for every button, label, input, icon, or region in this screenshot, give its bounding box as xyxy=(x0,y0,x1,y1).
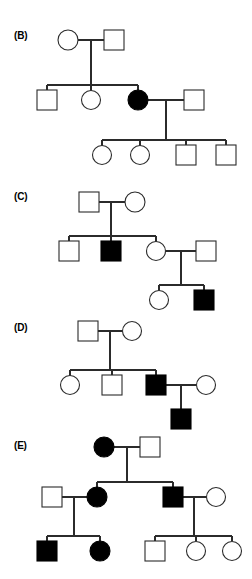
individual-c-I-1-male-unaffected[interactable] xyxy=(79,192,99,212)
individual-e-III-5-female-unaffected[interactable] xyxy=(223,542,242,561)
panel-b-group xyxy=(37,30,236,165)
individual-e-I-1-female-affected[interactable] xyxy=(94,437,114,457)
individual-d-I-2-female-unaffected[interactable] xyxy=(123,322,142,341)
individual-c-II-3-female-unaffected[interactable] xyxy=(147,242,166,261)
panel-label-e: (E) xyxy=(14,440,27,451)
pedigree-canvas xyxy=(0,0,252,579)
individual-e-III-4-female-unaffected[interactable] xyxy=(187,542,206,561)
individual-d-II-3-male-affected[interactable] xyxy=(146,375,166,395)
individual-b-II-3-female-affected[interactable] xyxy=(128,90,148,110)
individual-c-III-1-female-unaffected[interactable] xyxy=(150,291,169,310)
panel-label-b: (B) xyxy=(14,30,27,41)
individual-c-I-2-female-unaffected[interactable] xyxy=(125,192,145,212)
panel-e-group xyxy=(37,437,242,561)
panel-label-c: (C) xyxy=(14,191,27,202)
panel-d-group xyxy=(61,321,216,429)
individual-d-II-4-female-unaffected[interactable] xyxy=(197,376,216,395)
individual-b-II-4-male-unaffected[interactable] xyxy=(184,90,204,110)
individual-d-II-2-male-unaffected[interactable] xyxy=(102,375,122,395)
individual-b-III-4-male-unaffected[interactable] xyxy=(216,145,236,165)
individual-d-I-1-male-unaffected[interactable] xyxy=(78,321,98,341)
individual-b-III-3-male-unaffected[interactable] xyxy=(176,145,196,165)
individual-e-II-4-female-unaffected[interactable] xyxy=(207,488,226,507)
individual-b-III-2-female-unaffected[interactable] xyxy=(131,146,150,165)
pedigree-figure: (B) (C) (D) (E) xyxy=(0,0,252,579)
individual-b-III-1-female-unaffected[interactable] xyxy=(93,146,112,165)
panel-c-group xyxy=(59,192,216,310)
panel-label-d: (D) xyxy=(14,322,27,333)
individual-e-III-2-female-affected[interactable] xyxy=(90,541,110,561)
individual-c-II-4-male-unaffected[interactable] xyxy=(196,241,216,261)
individual-b-II-1-male-unaffected[interactable] xyxy=(37,90,57,110)
individual-e-III-1-male-affected[interactable] xyxy=(37,541,57,561)
individual-c-III-2-male-affected[interactable] xyxy=(194,290,214,310)
individual-e-II-1-male-unaffected[interactable] xyxy=(42,487,62,507)
individual-d-III-1-male-affected[interactable] xyxy=(171,409,191,429)
individual-c-II-2-male-affected[interactable] xyxy=(101,241,121,261)
individual-e-III-3-male-unaffected[interactable] xyxy=(145,541,165,561)
individual-c-II-1-male-unaffected[interactable] xyxy=(59,241,79,261)
individual-b-I-1-female-unaffected[interactable] xyxy=(58,30,78,50)
individual-b-II-2-female-unaffected[interactable] xyxy=(82,91,101,110)
individual-e-I-2-male-unaffected[interactable] xyxy=(140,437,160,457)
individual-e-II-2-female-affected[interactable] xyxy=(87,487,107,507)
individual-d-II-1-female-unaffected[interactable] xyxy=(61,376,80,395)
individual-e-II-3-male-affected[interactable] xyxy=(163,487,183,507)
individual-b-I-2-male-unaffected[interactable] xyxy=(104,30,124,50)
